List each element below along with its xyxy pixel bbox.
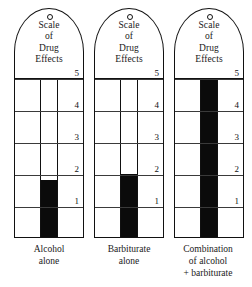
head-title-line: of	[175, 31, 243, 42]
mercury-fill	[41, 180, 57, 237]
head-title-line: Effects	[175, 54, 243, 65]
thermometer-body: 5 4 3 2 1	[14, 78, 84, 238]
thermometer-body: 5 4 3 2 1	[174, 78, 244, 238]
head-title: Scale of Drug Effects	[175, 20, 243, 66]
head-title-line: Scale	[95, 20, 163, 31]
thermometer-combination: Scale of Drug Effects 5 4 3 2 1	[174, 8, 244, 238]
mercury-fill	[201, 79, 217, 237]
thermometer-head: Scale of Drug Effects	[14, 8, 84, 78]
head-title-line: Scale	[15, 20, 83, 31]
head-title-line: Scale	[175, 20, 243, 31]
thermometer-tube	[201, 79, 217, 237]
head-title: Scale of Drug Effects	[15, 20, 83, 66]
scale-column-right	[217, 79, 243, 237]
thermometer-tube	[41, 79, 57, 237]
thermometer-barbiturate-alone: Scale of Drug Effects 5 4 3 2 1	[94, 8, 164, 238]
caption-line: Combination	[160, 243, 252, 255]
head-title-line: Effects	[15, 54, 83, 65]
thermometer-body: 5 4 3 2 1	[94, 78, 164, 238]
thermometer-alcohol-alone: Scale of Drug Effects 5 4 3 2 1	[14, 8, 84, 238]
head-title-line: of	[15, 31, 83, 42]
thermometer-tube	[121, 79, 137, 237]
drug-effects-figure: Scale of Drug Effects 5 4 3 2 1	[0, 0, 252, 287]
scale-column-left	[95, 79, 121, 237]
caption-line: + barbiturate	[160, 267, 252, 279]
head-title: Scale of Drug Effects	[95, 20, 163, 66]
scale-column-left	[175, 79, 201, 237]
scale-column-left	[15, 79, 41, 237]
head-title-line: Drug	[95, 43, 163, 54]
scale-column-right	[137, 79, 163, 237]
thermometer-head: Scale of Drug Effects	[94, 8, 164, 78]
thermometer-head: Scale of Drug Effects	[174, 8, 244, 78]
scale-column-right	[57, 79, 83, 237]
head-title-line: Drug	[15, 43, 83, 54]
caption-line: of alcohol	[160, 255, 252, 267]
caption-combination: Combination of alcohol + barbiturate	[160, 243, 252, 279]
head-title-line: Effects	[95, 54, 163, 65]
head-title-line: Drug	[175, 43, 243, 54]
mercury-fill	[121, 174, 137, 237]
head-title-line: of	[95, 31, 163, 42]
